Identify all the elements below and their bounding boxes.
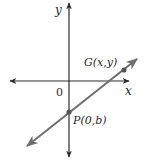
line-pg [27, 59, 137, 146]
point-p [66, 109, 71, 114]
coordinate-diagram: y x 0 G(x,y) P(0,b) [0, 0, 147, 160]
point-p-label: P(0,b) [72, 114, 107, 127]
point-g [121, 67, 126, 72]
x-axis-label: x [125, 84, 132, 98]
origin-label: 0 [56, 86, 63, 99]
point-g-label: G(x,y) [84, 56, 117, 69]
y-axis-label: y [54, 3, 62, 17]
